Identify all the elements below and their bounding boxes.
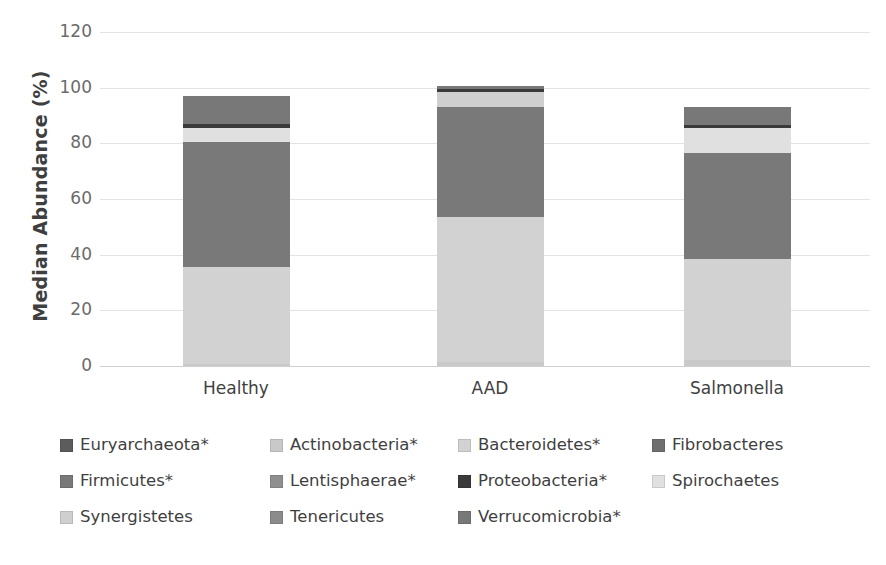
y-tick-label-20: 20 [32, 301, 92, 318]
legend-row-2: Firmicutes*Lentisphaerae*Proteobacteria*… [60, 468, 860, 504]
legend-label-actinobacteria: Actinobacteria* [290, 437, 418, 454]
legend-swatch-firmicutes-icon [60, 475, 73, 488]
y-tick-label-120: 120 [32, 23, 92, 40]
legend-swatch-lentisphaerae-icon [270, 475, 283, 488]
legend-label-euryarchaeota: Euryarchaeota* [80, 437, 209, 454]
bar-aad[interactable] [437, 20, 544, 372]
chart-legend: Euryarchaeota*Actinobacteria*Bacteroidet… [60, 432, 860, 552]
legend-swatch-fibrobacteres-icon [652, 439, 665, 452]
legend-item-synergistetes[interactable]: Synergistetes [60, 504, 193, 530]
legend-item-verrucomicrobia[interactable]: Verrucomicrobia* [458, 504, 621, 530]
legend-label-tenericutes: Tenericutes [290, 509, 384, 526]
legend-label-bacteroidetes: Bacteroidetes* [478, 437, 600, 454]
y-tick-label-100: 100 [32, 79, 92, 96]
legend-swatch-bacteroidetes-icon [458, 439, 471, 452]
bar-segment-healthy-actinobacteria[interactable] [183, 364, 290, 366]
x-axis-label-healthy: Healthy [146, 378, 326, 398]
legend-label-verrucomicrobia: Verrucomicrobia* [478, 509, 621, 526]
legend-label-fibrobacteres: Fibrobacteres [672, 437, 783, 454]
legend-item-fibrobacteres[interactable]: Fibrobacteres [652, 432, 783, 458]
bar-segment-aad-verrucomicrobia[interactable] [437, 86, 544, 89]
y-tick-label-80: 80 [32, 134, 92, 151]
bar-segment-healthy-firmicutes[interactable] [183, 142, 290, 267]
y-tick-label-0: 0 [32, 357, 92, 374]
legend-swatch-tenericutes-icon [270, 511, 283, 524]
legend-swatch-actinobacteria-icon [270, 439, 283, 452]
stacked-bar-chart-figure: Median Abundance (%) 020406080100120 Hea… [0, 0, 886, 565]
bar-segment-salmonella-verrucomicrobia[interactable] [684, 107, 791, 125]
legend-item-tenericutes[interactable]: Tenericutes [270, 504, 384, 530]
bar-segment-healthy-spirochaetes[interactable] [183, 128, 290, 142]
legend-label-lentisphaerae: Lentisphaerae* [290, 473, 416, 490]
bar-segment-salmonella-firmicutes[interactable] [684, 153, 791, 259]
legend-row-3: SynergistetesTenericutesVerrucomicrobia* [60, 504, 860, 540]
y-axis-tick-labels: 020406080100120 [30, 20, 92, 372]
bar-segment-aad-proteobacteria[interactable] [437, 89, 544, 92]
y-tick-label-40: 40 [32, 246, 92, 263]
legend-item-spirochaetes[interactable]: Spirochaetes [652, 468, 779, 494]
bar-healthy[interactable] [183, 20, 290, 372]
legend-item-bacteroidetes[interactable]: Bacteroidetes* [458, 432, 600, 458]
legend-item-proteobacteria[interactable]: Proteobacteria* [458, 468, 607, 494]
bar-segment-aad-bacteroidetes[interactable] [437, 217, 544, 362]
legend-item-lentisphaerae[interactable]: Lentisphaerae* [270, 468, 416, 494]
legend-swatch-proteobacteria-icon [458, 475, 471, 488]
legend-row-1: Euryarchaeota*Actinobacteria*Bacteroidet… [60, 432, 860, 468]
legend-label-proteobacteria: Proteobacteria* [478, 473, 607, 490]
bar-segment-aad-synergistetes[interactable] [437, 92, 544, 107]
bar-segment-salmonella-proteobacteria[interactable] [684, 125, 791, 128]
bar-segment-healthy-proteobacteria[interactable] [183, 124, 290, 128]
legend-swatch-synergistetes-icon [60, 511, 73, 524]
legend-swatch-spirochaetes-icon [652, 475, 665, 488]
bar-segment-salmonella-actinobacteria[interactable] [684, 360, 791, 366]
x-axis-label-aad: AAD [400, 378, 580, 398]
x-axis-category-labels: HealthyAADSalmonella [100, 378, 870, 408]
bar-segment-healthy-verrucomicrobia[interactable] [183, 96, 290, 124]
legend-item-firmicutes[interactable]: Firmicutes* [60, 468, 173, 494]
legend-label-spirochaetes: Spirochaetes [672, 473, 779, 490]
bar-segment-aad-actinobacteria[interactable] [437, 362, 544, 366]
legend-item-euryarchaeota[interactable]: Euryarchaeota* [60, 432, 209, 458]
x-axis-label-salmonella: Salmonella [647, 378, 827, 398]
legend-label-synergistetes: Synergistetes [80, 509, 193, 526]
legend-swatch-verrucomicrobia-icon [458, 511, 471, 524]
bar-segment-healthy-bacteroidetes[interactable] [183, 267, 290, 364]
legend-swatch-euryarchaeota-icon [60, 439, 73, 452]
y-tick-label-60: 60 [32, 190, 92, 207]
bar-segment-salmonella-bacteroidetes[interactable] [684, 259, 791, 360]
legend-label-firmicutes: Firmicutes* [80, 473, 173, 490]
plot-area [100, 20, 870, 372]
legend-item-actinobacteria[interactable]: Actinobacteria* [270, 432, 418, 458]
bar-salmonella[interactable] [684, 20, 791, 372]
bar-segment-salmonella-spirochaetes[interactable] [684, 128, 791, 153]
bar-segment-aad-firmicutes[interactable] [437, 107, 544, 217]
